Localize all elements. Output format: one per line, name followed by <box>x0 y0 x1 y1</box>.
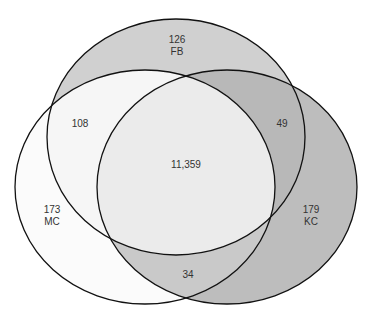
mc-kc-count: 34 <box>158 269 218 281</box>
mc-count: 173 <box>22 204 82 216</box>
kc-label: 179 KC <box>281 204 341 228</box>
fb-mc-count: 108 <box>50 118 110 130</box>
kc-count: 179 <box>281 204 341 216</box>
mc-label: 173 MC <box>22 204 82 228</box>
fb-count: 126 <box>147 34 207 46</box>
mc-name: MC <box>22 216 82 228</box>
fb-name: FB <box>147 46 207 58</box>
all-count: 11,359 <box>156 159 216 171</box>
kc-name: KC <box>281 216 341 228</box>
fb-kc-count: 49 <box>252 118 312 130</box>
fb-label: 126 FB <box>147 34 207 58</box>
